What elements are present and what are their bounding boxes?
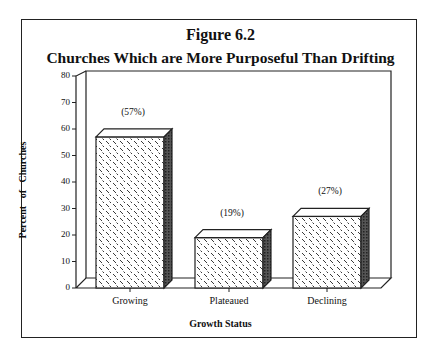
x-tick-label: Plateaued xyxy=(210,295,249,306)
x-tick-label: Declining xyxy=(307,295,346,306)
y-axis-label: Percent of Churches xyxy=(17,142,28,239)
data-label: (27%) xyxy=(318,186,342,196)
y-tick-label: 20 xyxy=(54,229,70,239)
y-tick-label: 10 xyxy=(54,256,70,266)
data-label: (57%) xyxy=(121,107,145,117)
y-tick-label: 30 xyxy=(54,203,70,213)
y-tick-label: 70 xyxy=(54,97,70,107)
y-tick-label: 60 xyxy=(54,123,70,133)
y-tick-label: 80 xyxy=(54,70,70,80)
x-axis-label: Growth Status xyxy=(0,318,441,329)
bar-growing xyxy=(96,129,172,288)
bar-plateaued xyxy=(195,230,271,288)
x-tick-label: Growing xyxy=(112,295,148,306)
y-tick-label: 50 xyxy=(54,150,70,160)
y-tick-label: 40 xyxy=(54,176,70,186)
y-tick-label: 0 xyxy=(54,282,70,292)
data-label: (19%) xyxy=(220,208,244,218)
bar-declining xyxy=(293,208,369,288)
